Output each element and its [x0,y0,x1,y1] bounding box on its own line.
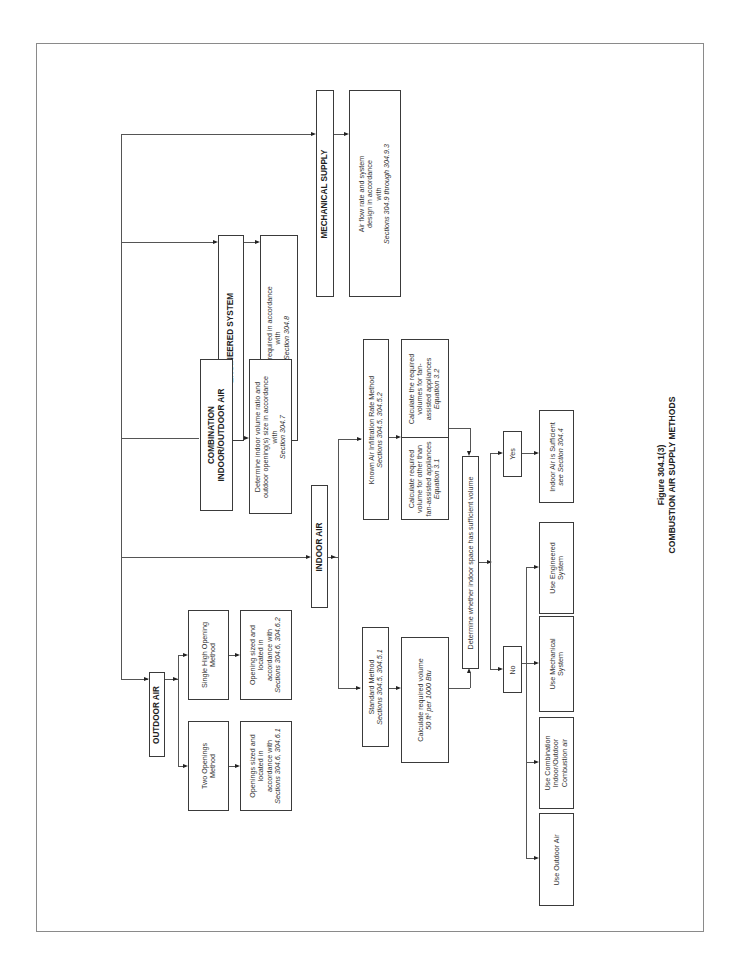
node-determine-sufficient: Determine whether indoor space has suffi… [462,456,479,669]
trunk-line [121,134,122,679]
node-single-high-detail: Opening sized and located in accordance … [240,610,292,700]
figure-number: Figure 304.1(3) [656,397,667,554]
calc-standard-up [470,673,471,688]
no-options-trunk [526,567,527,859]
arrow-to-known [357,437,362,441]
outdoor-split [178,655,179,766]
node-two-openings-detail: Openings sized and located in accordance… [240,721,292,811]
indoor-split [338,439,339,689]
arrow-to-standard [356,686,361,690]
branch-indoor [121,557,309,558]
node-standard-method: Standard Method Sections 304.5, 304.5.1 [362,627,389,747]
node-calc-fan-assisted: Calculate the required volumes for fan- … [401,339,449,438]
calc-standard-out [448,688,470,689]
node-outdoor-air: OUTDOOR AIR [149,672,165,757]
node-calc-other: Calculate required volume for other than… [401,437,449,520]
node-mechanical-detail: Air flow rate and system design in accor… [349,90,401,297]
branch-combination [121,438,199,439]
node-use-mechanical: Use Mechanical System [539,616,574,712]
node-combination: COMBINATION INDOOR/OUTDOOR AIR [200,359,233,511]
node-indoor-sufficient: Indoor Air is Sufficient see Section 304… [539,410,574,503]
calc-known-down [470,428,471,452]
figure-title: COMBUSTION AIR SUPPLY METHODS [667,397,678,554]
node-use-outdoor: Use Outdoor Air [539,813,574,906]
node-combination-detail: Determine indoor volume ratio and outdoo… [249,359,292,514]
node-standard-calc: Calculate required volume 50 ft³ per 100… [401,637,449,763]
node-use-combination: Use Combination Indoor/Outdoor Combustio… [539,717,574,809]
node-yes: Yes [503,431,522,477]
yes-no-split [490,453,491,670]
calc-known-out [448,428,470,429]
node-single-high-opening: Single High Opening Method [188,610,229,700]
node-no: No [503,646,522,693]
node-indoor-air: INDOOR AIR [311,485,328,608]
node-mechanical-supply: MECHANICAL SUPPLY [316,90,334,297]
node-two-openings: Two Openings Method [188,721,229,811]
arrow-indoor-out [331,555,336,559]
node-known-infiltration: Known Air Infiltration Rate Method Secti… [363,339,389,520]
node-use-engineered: Use Engineered System [539,522,574,614]
branch-engineered [121,242,216,243]
branch-mechanical [121,134,314,135]
figure-caption: Figure 304.1(3) COMBUSTION AIR SUPPLY ME… [656,397,678,554]
